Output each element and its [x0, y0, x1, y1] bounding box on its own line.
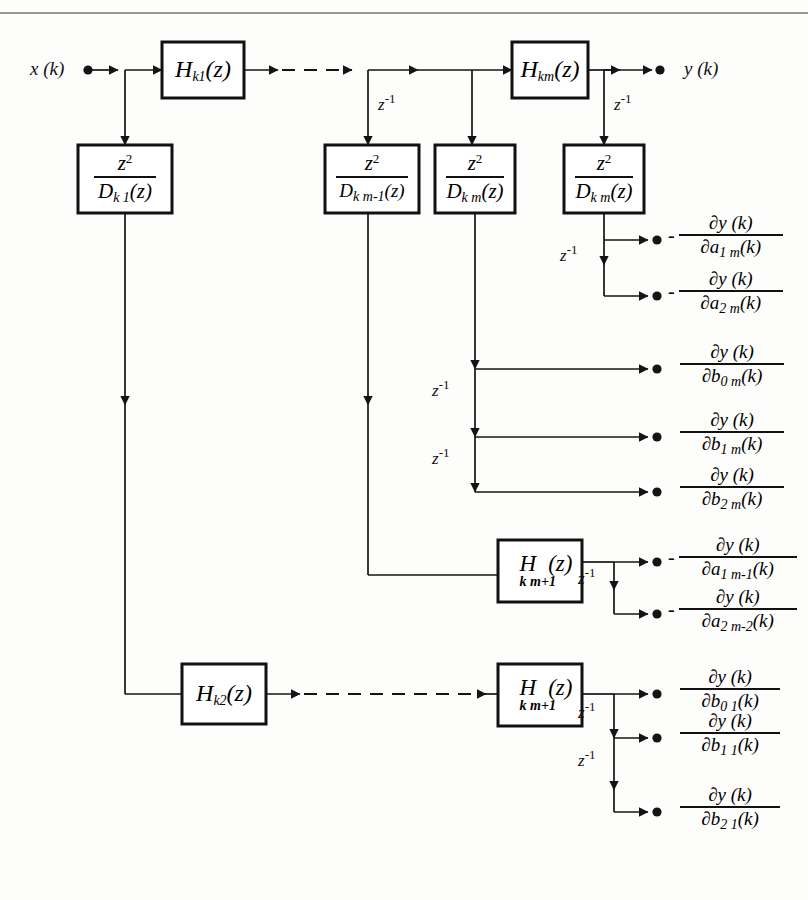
- block-h-km-label: Hkm(z): [512, 42, 588, 98]
- h-k2-base: H: [196, 680, 213, 706]
- den-b21-sub: 2 1: [720, 817, 738, 832]
- num-b1m: ∂y (k): [710, 409, 754, 430]
- frac-dkm-b-content: z2 Dk m(z): [564, 152, 644, 205]
- delay-label-b0m: z-1: [432, 378, 449, 399]
- frac-dk1-den-base: D: [98, 179, 113, 203]
- den-a1m1-sub: 1 m-1: [720, 567, 752, 582]
- num-a2m: ∂y (k): [709, 268, 753, 289]
- den-a2m-sub: 2 m: [719, 301, 740, 316]
- den-a1m1-arg: (k): [753, 558, 774, 579]
- den-a2m2-arg: (k): [753, 610, 774, 631]
- output-label-b0m: ∂y (k) ∂b0 m(k): [676, 342, 784, 389]
- den-b0m-arg: (k): [741, 365, 762, 386]
- num-a1m: ∂y (k): [709, 212, 753, 233]
- delay-label-b1m: z-1: [432, 446, 449, 467]
- dot-out-b2m: [652, 487, 661, 496]
- frac-dkm-a-num: z: [468, 151, 476, 175]
- num-b2m: ∂y (k): [710, 464, 754, 485]
- frac-dk1-num-exp: 2: [126, 151, 133, 166]
- den-b2m-arg: (k): [741, 488, 762, 509]
- frac-dkm-b-num-exp: 2: [605, 151, 612, 166]
- frac-dkm1-num-exp: 2: [373, 151, 380, 166]
- den-a2m2-base: ∂a: [702, 610, 721, 631]
- h-kmp1-lower-arg: (z): [548, 675, 572, 700]
- frac-dk1-content: z2 Dk 1(z): [78, 152, 172, 205]
- delay-label-b11: z-1: [578, 748, 595, 769]
- frac-dkm1-den-sub: k m-1: [353, 189, 385, 204]
- den-a2m2-sub: 2 m-2: [720, 619, 752, 634]
- output-label: y (k): [684, 59, 718, 78]
- h-km-sub: km: [538, 68, 554, 83]
- den-b11-base: ∂b: [701, 734, 720, 755]
- den-a2m-arg: (k): [740, 292, 761, 313]
- delay-label-a1m: z-1: [560, 243, 577, 264]
- block-h-kmp1-upper-label: H(z) k m+1: [498, 540, 582, 602]
- frac-dkm1-den-base: D: [339, 180, 353, 201]
- output-label-a2m2: - ∂y (k) ∂a2 m-2(k): [668, 587, 797, 634]
- dot-out-b1m: [652, 432, 661, 441]
- output-label-b11: ∂y (k) ∂b1 1(k): [676, 711, 780, 758]
- num-a1m1: ∂y (k): [716, 534, 760, 555]
- num-b01: ∂y (k): [708, 666, 752, 687]
- h-kmp1-upper-base: H: [520, 551, 537, 576]
- den-b11-arg: (k): [738, 734, 759, 755]
- block-h-k2-label: Hk2(z): [182, 664, 266, 724]
- frac-dkm-a-den-base: D: [446, 179, 461, 203]
- delay-label-km-top: z-1: [614, 92, 631, 113]
- h-km-arg: (z): [554, 56, 579, 82]
- frac-dkm-a-num-exp: 2: [476, 151, 483, 166]
- num-a2m2: ∂y (k): [716, 586, 760, 607]
- h-kmp1-upper-arg: (z): [548, 551, 572, 576]
- h-k1-sub: k1: [192, 68, 205, 83]
- output-label-b2m: ∂y (k) ∂b2 m(k): [676, 465, 784, 512]
- output-label-b21: ∂y (k) ∂b2 1(k): [676, 785, 780, 832]
- den-b2m-sub: 2 m: [721, 497, 742, 512]
- frac-dkm-a-den-arg: (z): [481, 179, 503, 203]
- h-k1-arg: (z): [206, 56, 231, 82]
- den-b1m-sub: 1 m: [721, 442, 742, 457]
- frac-dkm1-content: z2 Dk m-1(z): [325, 152, 419, 204]
- dot-out-a1m: [652, 235, 661, 244]
- block-h-k1-label: Hk1(z): [162, 42, 244, 98]
- den-b2m-base: ∂b: [702, 488, 721, 509]
- den-b11-sub: 1 1: [720, 743, 738, 758]
- den-a2m-base: ∂a: [700, 292, 719, 313]
- den-b1m-base: ∂b: [702, 433, 721, 454]
- output-label-a1m: - ∂y (k) ∂a1 m(k): [668, 213, 783, 260]
- frac-dkm1-den-arg: (z): [385, 180, 405, 201]
- den-a1m1-base: ∂a: [702, 558, 721, 579]
- dot-out-b11: [652, 733, 661, 742]
- sign-a2m: -: [668, 280, 675, 306]
- den-b1m-arg: (k): [741, 433, 762, 454]
- frac-dkm-b-den-base: D: [575, 179, 590, 203]
- den-b0m-base: ∂b: [702, 365, 721, 386]
- diagram-canvas: x (k) y (k) Hk1(z) Hkm(z) Hk2(z) H(z) k …: [0, 0, 808, 900]
- delay-label-a1m1: z-1: [578, 566, 595, 587]
- den-a1m-sub: 1 m: [719, 245, 740, 260]
- h-k1-base: H: [175, 56, 192, 82]
- frac-dkm1-num: z: [365, 151, 373, 175]
- den-b21-arg: (k): [738, 808, 759, 829]
- block-h-kmp1-lower-label: H(z) k m+1: [498, 664, 582, 726]
- h-kmp1-upper-sub: k m+1: [520, 574, 556, 589]
- h-kmp1-lower-base: H: [520, 675, 537, 700]
- frac-dkm-a-den-sub: k m: [462, 190, 482, 205]
- frac-dkm-b-den-arg: (z): [610, 179, 632, 203]
- num-b21: ∂y (k): [708, 784, 752, 805]
- sign-a1m1: -: [668, 546, 675, 572]
- frac-dkm-a-content: z2 Dk m(z): [435, 152, 515, 205]
- frac-dk1-den-sub: k 1: [113, 190, 130, 205]
- h-km-base: H: [521, 56, 538, 82]
- dot-out-b0m: [652, 364, 661, 373]
- delay-label-km1-top: z-1: [378, 92, 395, 113]
- output-node-dot: [655, 65, 664, 74]
- dot-out-a1m1: [652, 557, 661, 566]
- output-label-a2m: - ∂y (k) ∂a2 m(k): [668, 269, 783, 316]
- output-label-a1m1: - ∂y (k) ∂a1 m-1(k): [668, 535, 797, 582]
- den-b01-base: ∂b: [701, 690, 720, 711]
- frac-dkm-b-den-sub: k m: [591, 190, 611, 205]
- h-k2-sub: k2: [213, 692, 226, 707]
- den-b21-base: ∂b: [701, 808, 720, 829]
- den-a1m-arg: (k): [740, 236, 761, 257]
- den-b0m-sub: 0 m: [721, 374, 742, 389]
